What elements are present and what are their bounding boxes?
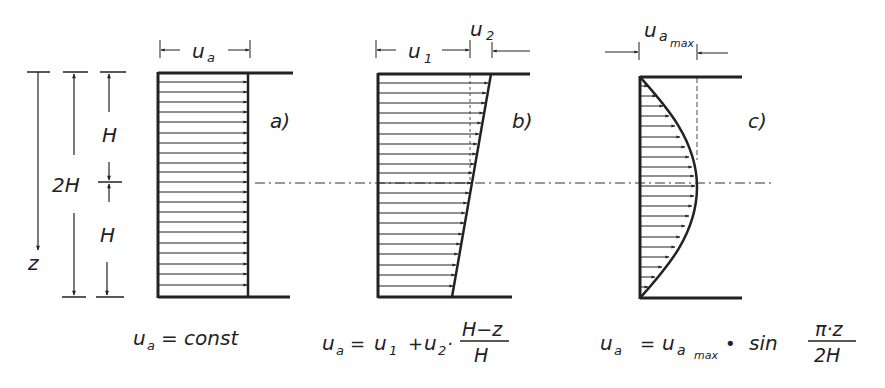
panel-b-width-label-1: u (408, 39, 421, 63)
svg-text:·: · (447, 333, 453, 354)
svg-text:a: a (336, 343, 344, 358)
velocity-arrows-a (159, 82, 247, 285)
panel-b-width-label-2: u (470, 17, 483, 41)
depth-axis-label: z (27, 251, 39, 275)
svg-text:2: 2 (438, 343, 446, 358)
svg-text:a: a (677, 342, 686, 358)
svg-text:u: u (322, 331, 335, 355)
svg-text:2: 2 (486, 28, 494, 43)
panel-c-tag: c) (748, 109, 767, 133)
svg-text:a: a (147, 338, 155, 353)
svg-text:a: a (614, 343, 622, 358)
svg-text:=: = (350, 333, 365, 354)
upper-half-label: H (102, 123, 117, 147)
panel-c: u a max c) u a = u a max • sin π·z 2H (600, 18, 856, 366)
svg-text:H−z: H−z (462, 318, 503, 340)
svg-text:max: max (694, 349, 718, 362)
svg-text:= const: = const (161, 326, 239, 350)
svg-text:u: u (662, 331, 675, 355)
svg-text:1: 1 (389, 343, 397, 358)
panel-c-width-label: u (644, 18, 657, 42)
svg-text:1: 1 (424, 51, 432, 66)
svg-text:π·z: π·z (815, 318, 843, 340)
svg-text:u: u (424, 331, 437, 355)
svg-text:sin: sin (749, 331, 778, 355)
svg-text:u: u (374, 331, 387, 355)
svg-text:u: u (133, 326, 146, 350)
svg-text:a: a (659, 28, 668, 44)
panel-b-formula: u a = u 1 + u 2 · H−z H (322, 318, 509, 366)
panel-a-formula: u a = const (133, 326, 239, 353)
svg-text:a: a (207, 50, 215, 65)
velocity-profiles-diagram: 2H H H z (0, 0, 885, 388)
panel-c-formula: u a = u a max • sin π·z 2H (600, 318, 856, 366)
total-height-label: 2H (52, 173, 80, 197)
panel-a-width-label: u (192, 39, 205, 63)
svg-text:=: = (640, 333, 655, 354)
panel-b: u 1 u 2 b) u a = u 1 + u 2 · H−z H (322, 17, 533, 366)
svg-text:u: u (600, 331, 613, 355)
svg-text:•: • (725, 333, 736, 354)
panel-a: u a a) u a = const (133, 39, 293, 353)
panel-a-tag: a) (270, 109, 290, 133)
lower-half-label: H (100, 223, 115, 247)
svg-text:max: max (670, 37, 694, 50)
svg-text:2H: 2H (814, 344, 840, 366)
svg-text:+: + (408, 333, 423, 354)
velocity-arrows-c (641, 86, 695, 287)
svg-text:H: H (474, 344, 488, 366)
panel-b-tag: b) (512, 109, 533, 133)
